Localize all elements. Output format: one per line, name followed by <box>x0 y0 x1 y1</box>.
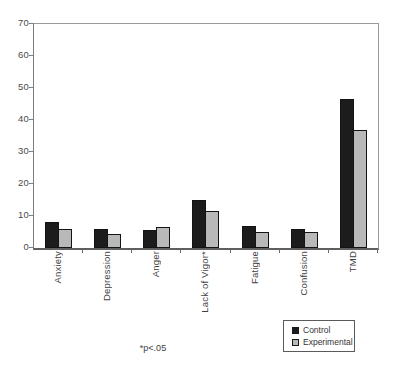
experimental-bar <box>205 211 219 248</box>
y-axis-tick-label: 40 <box>0 114 29 124</box>
legend-item-experimental: Experimental <box>292 338 354 347</box>
control-bar <box>94 229 108 248</box>
legend-item-control: Control <box>292 326 354 335</box>
y-axis-tick-mark <box>29 87 33 88</box>
control-bar <box>192 200 206 248</box>
bar-group-anxiety <box>34 24 83 248</box>
y-axis-tick-label: 10 <box>0 210 29 220</box>
experimental-bar <box>353 130 367 248</box>
x-axis-category-label: Depression <box>101 251 112 301</box>
y-axis-tick-mark <box>29 119 33 120</box>
x-label-slot: Confusion <box>279 251 328 323</box>
y-axis-tick-mark <box>29 215 33 216</box>
legend-swatch-icon <box>292 339 299 346</box>
bar-chart-figure: AnxietyDepressionAngerLack of Vigor*Fati… <box>0 0 395 367</box>
y-axis-tick-mark <box>29 247 33 248</box>
x-axis-category-label: Anger <box>150 251 161 277</box>
x-axis-tick-mark <box>131 249 132 253</box>
bar-group-lack-of-vigor <box>181 24 230 248</box>
experimental-bar <box>304 232 318 248</box>
plot-area <box>33 23 379 250</box>
legend-swatch-icon <box>292 327 299 334</box>
x-label-slot: Depression <box>82 251 131 323</box>
legend-label: Experimental <box>303 337 353 347</box>
x-label-slot: Anxiety <box>33 251 82 323</box>
x-axis-labels: AnxietyDepressionAngerLack of Vigor*Fati… <box>33 251 377 323</box>
x-axis-tick-mark <box>279 249 280 253</box>
experimental-bar <box>107 234 121 248</box>
x-axis-tick-mark <box>180 249 181 253</box>
legend: ControlExperimental <box>283 320 355 352</box>
bar-group-fatigue <box>231 24 280 248</box>
x-label-slot: TMD <box>328 251 377 323</box>
x-label-slot: Anger <box>131 251 180 323</box>
bar-group-tmd <box>329 24 378 248</box>
y-axis-tick-mark <box>29 23 33 24</box>
x-axis-category-label: TMD <box>347 251 358 272</box>
x-axis-category-label: Fatigue <box>249 251 260 284</box>
legend-label: Control <box>303 325 330 335</box>
significance-footnote: *p<.05 <box>110 343 196 353</box>
control-bar <box>291 229 305 248</box>
bar-group-anger <box>132 24 181 248</box>
experimental-bar <box>255 232 269 248</box>
x-axis-tick-mark <box>377 249 378 253</box>
y-axis-tick-label: 20 <box>0 178 29 188</box>
y-axis-tick-mark <box>29 55 33 56</box>
y-axis-tick-label: 70 <box>0 18 29 28</box>
y-axis-tick-mark <box>29 183 33 184</box>
bar-group-depression <box>83 24 132 248</box>
experimental-bar <box>156 227 170 248</box>
x-axis-tick-mark <box>82 249 83 253</box>
x-axis-category-label: Lack of Vigor* <box>199 251 210 313</box>
y-axis-tick-label: 30 <box>0 146 29 156</box>
y-axis-tick-mark <box>29 151 33 152</box>
y-axis-tick-label: 50 <box>0 82 29 92</box>
bar-group-confusion <box>280 24 329 248</box>
x-axis-tick-mark <box>230 249 231 253</box>
x-label-slot: Fatigue <box>230 251 279 323</box>
x-axis-tick-mark <box>328 249 329 253</box>
x-axis-category-label: Confusion <box>298 251 309 296</box>
x-axis-category-label: Anxiety <box>52 251 63 284</box>
control-bar <box>242 226 256 248</box>
x-label-slot: Lack of Vigor* <box>180 251 229 323</box>
control-bar <box>340 99 354 248</box>
experimental-bar <box>58 229 72 248</box>
control-bar <box>143 230 157 248</box>
y-axis-tick-label: 0 <box>0 242 29 252</box>
control-bar <box>45 222 59 248</box>
y-axis-tick-label: 60 <box>0 50 29 60</box>
